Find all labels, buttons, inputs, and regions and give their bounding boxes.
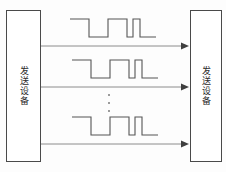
signal-waveform-1 — [70, 19, 156, 37]
signal-waveforms — [70, 19, 158, 135]
diagram-canvas: 发送设备 发送设备 — [0, 0, 226, 172]
signal-waveform-3 — [72, 117, 158, 135]
arrow-head-channel-3 — [181, 141, 189, 148]
signal-waveform-2 — [72, 60, 158, 78]
arrow-head-channel-2 — [181, 84, 189, 91]
connection-lines — [41, 43, 189, 148]
arrow-head-channel-1 — [181, 43, 189, 50]
diagram-vector-layer — [0, 0, 226, 172]
